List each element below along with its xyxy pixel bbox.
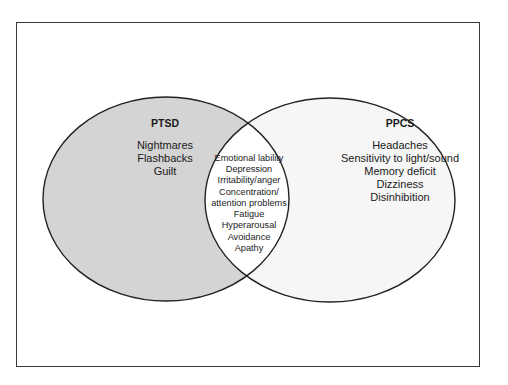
overlap-label-group: Emotional lability Depression Irritabili… xyxy=(196,153,302,254)
overlap-item: Irritability/anger xyxy=(196,175,302,186)
overlap-item: Concentration/ xyxy=(196,187,302,198)
overlap-item: Apathy xyxy=(196,243,302,254)
overlap-item: attention problems xyxy=(196,198,302,209)
ppcs-label-group: PPCS Headaches Sensitivity to light/soun… xyxy=(325,117,475,205)
overlap-item: Depression xyxy=(196,164,302,175)
overlap-item: Emotional lability xyxy=(196,153,302,164)
ppcs-item: Dizziness xyxy=(325,178,475,191)
ptsd-title: PTSD xyxy=(105,117,225,130)
ppcs-title: PPCS xyxy=(325,117,475,130)
ppcs-item: Disinhibition xyxy=(325,191,475,204)
ppcs-item: Memory deficit xyxy=(325,165,475,178)
overlap-item: Avoidance xyxy=(196,232,302,243)
overlap-item: Hyperarousal xyxy=(196,220,302,231)
overlap-item: Fatigue xyxy=(196,209,302,220)
ppcs-item: Headaches xyxy=(325,139,475,152)
ptsd-item: Nightmares xyxy=(105,139,225,152)
ppcs-item: Sensitivity to light/sound xyxy=(325,152,475,165)
